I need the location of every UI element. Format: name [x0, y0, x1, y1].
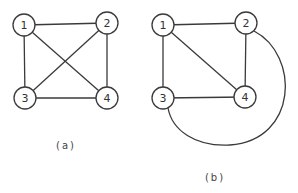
node-2: 2 — [96, 12, 118, 34]
caption-a: (a) — [56, 140, 76, 151]
node-4: 4 — [234, 86, 256, 108]
graph-figure: 1 2 3 4 (a) 1 2 — [0, 0, 298, 193]
node-label: 1 — [21, 19, 28, 32]
node-3: 3 — [152, 87, 174, 109]
node-1: 1 — [152, 14, 174, 36]
edge-1-4 — [163, 25, 245, 97]
edge-1-2 — [163, 23, 246, 25]
node-2: 2 — [235, 12, 257, 34]
edge-2-3-arc — [168, 31, 285, 145]
node-label: 2 — [104, 17, 111, 30]
node-label: 3 — [22, 92, 29, 105]
figure-b: 1 2 3 4 (b) — [152, 12, 285, 183]
node-3: 3 — [14, 87, 36, 109]
edge-3-4 — [163, 97, 245, 98]
node-1: 1 — [13, 14, 35, 36]
figure-a: 1 2 3 4 (a) — [13, 12, 118, 151]
node-4: 4 — [96, 87, 118, 109]
node-label: 2 — [243, 17, 250, 30]
edge-1-2 — [24, 23, 107, 25]
caption-b: (b) — [205, 172, 225, 183]
node-label: 4 — [242, 91, 249, 104]
node-label: 1 — [160, 19, 167, 32]
node-label: 4 — [104, 92, 111, 105]
node-label: 3 — [160, 92, 167, 105]
